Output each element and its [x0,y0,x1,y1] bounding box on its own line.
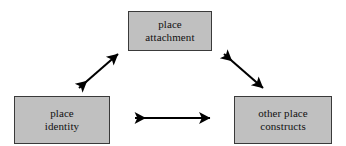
node-place-attachment-line1: place [158,18,182,31]
node-place-attachment-line2: attachment [145,31,194,44]
arrow-attachment-to-other-constructs [224,54,263,88]
node-place-identity-line1: place [50,107,74,120]
node-other-place-constructs-line1: other place [258,107,308,120]
node-other-place-constructs[interactable]: other place constructs [234,96,332,144]
node-other-place-constructs-line2: constructs [260,120,306,133]
node-place-identity-line2: identity [45,120,79,133]
node-place-identity[interactable]: place identity [14,96,110,144]
node-place-attachment[interactable]: place attachment [128,11,212,51]
place-constructs-diagram: place attachment place identity other pl… [0,0,346,146]
arrow-identity-to-attachment [79,54,118,88]
